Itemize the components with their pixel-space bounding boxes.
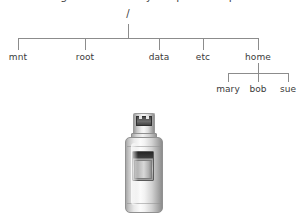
tree-drop-mnt: [18, 38, 19, 50]
usb-body-highlight: [131, 143, 138, 205]
tree-drop-root: [85, 38, 86, 50]
tree-drop-sue: [288, 73, 289, 82]
usb-contact-pin-left: [139, 116, 142, 119]
tree-node-etc: etc: [196, 52, 210, 62]
tree-node-bob: bob: [249, 84, 266, 94]
tree-drop-data: [159, 38, 160, 50]
tree-trunk-line: [128, 24, 129, 38]
tree-drop-bob: [258, 73, 259, 82]
tree-node-mnt: mnt: [9, 52, 27, 62]
filesystem-tree-diagram: / mnt root data etc home mary bob sue: [0, 0, 303, 105]
tree-drop-mary: [228, 73, 229, 82]
tree-node-home: home: [245, 52, 271, 62]
tree-node-sue: sue: [280, 84, 296, 94]
tree-drop-etc: [203, 38, 204, 50]
tree-node-root: /: [126, 8, 129, 19]
tree-horizontal-bar: [18, 38, 258, 39]
tree-node-data: data: [149, 52, 170, 62]
tree-stem-home: [258, 63, 259, 73]
tree-drop-home: [258, 38, 259, 50]
tree-node-mary: mary: [216, 84, 240, 94]
usb-flash-drive-illustration: [122, 113, 166, 213]
tree-node-root-dir: root: [76, 52, 94, 62]
usb-contact-pin-right: [146, 116, 149, 119]
